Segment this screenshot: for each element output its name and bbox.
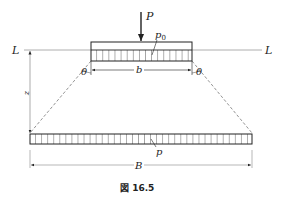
contact-pressure-label: p0	[155, 29, 166, 42]
figure-caption: 図 16.5	[120, 183, 154, 193]
depth-label: z	[23, 90, 32, 96]
spread-pressure-bar	[30, 134, 252, 144]
footing	[91, 42, 192, 61]
stress-distribution-diagram: L L P p0 θ θ b z p B	[0, 0, 284, 199]
ground-line-label-right: L	[264, 44, 272, 57]
angle-label-right: θ	[196, 66, 202, 77]
load-label: P	[145, 10, 154, 23]
angle-label-left: θ	[81, 66, 87, 77]
ground-line-label-left: L	[11, 44, 19, 57]
spread-pressure-label: p	[156, 146, 163, 157]
footing-width-label: b	[136, 64, 142, 75]
spread-width-label: B	[134, 160, 142, 171]
